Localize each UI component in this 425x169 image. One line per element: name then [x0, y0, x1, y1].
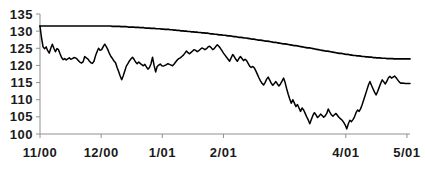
y-axis-tick-label: 120 [10, 59, 33, 72]
y-axis-tick-label: 105 [10, 110, 33, 123]
x-axis-ticks [40, 134, 407, 138]
y-axis-tick-label: 130 [10, 25, 33, 38]
y-axis-ticks [36, 14, 40, 134]
y-axis-tick-label: 115 [11, 76, 33, 89]
y-axis-tick-label: 125 [10, 42, 33, 55]
y-axis-tick-label: 110 [11, 93, 33, 106]
chart-series-group [40, 26, 410, 129]
x-axis-tick-label: 5/01 [367, 146, 425, 159]
y-axis-tick-label: 100 [10, 128, 33, 141]
volatile-price-line [40, 26, 410, 129]
y-axis-tick-label: 135 [10, 8, 33, 21]
x-axis-tick-label: 2/01 [183, 146, 263, 159]
